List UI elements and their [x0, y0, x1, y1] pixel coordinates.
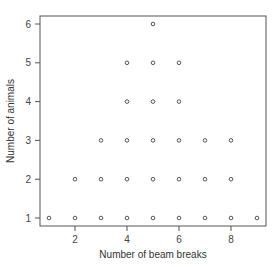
scatter-chart: 2468 123456 Number of beam breaks Number… [0, 0, 278, 267]
data-point-circle [99, 139, 103, 143]
data-point-circle [151, 61, 155, 65]
data-point-circle [177, 177, 181, 181]
x-tick-label: 2 [72, 234, 78, 245]
data-point-circle [203, 216, 207, 220]
data-point-circle [203, 139, 207, 143]
data-point-circle [151, 22, 155, 26]
y-tick-label: 5 [25, 57, 31, 68]
x-axis: 2468 [72, 226, 234, 245]
data-point-circle [151, 139, 155, 143]
data-point-circle [229, 177, 233, 181]
data-point-circle [177, 139, 181, 143]
data-points [47, 22, 259, 220]
y-tick-label: 4 [25, 96, 31, 107]
data-point-circle [99, 177, 103, 181]
data-point-circle [255, 216, 259, 220]
plot-frame [40, 16, 266, 226]
data-point-circle [99, 216, 103, 220]
x-tick-label: 8 [228, 234, 234, 245]
data-point-circle [125, 61, 129, 65]
data-point-circle [151, 100, 155, 104]
x-tick-label: 4 [124, 234, 130, 245]
data-point-circle [177, 100, 181, 104]
data-point-circle [125, 100, 129, 104]
data-point-circle [125, 177, 129, 181]
data-point-circle [177, 216, 181, 220]
data-point-circle [73, 177, 77, 181]
data-point-circle [229, 216, 233, 220]
x-tick-label: 6 [176, 234, 182, 245]
plot-border [40, 16, 266, 226]
data-point-circle [151, 216, 155, 220]
data-point-circle [151, 177, 155, 181]
x-axis-label: Number of beam breaks [99, 249, 206, 260]
data-point-circle [125, 139, 129, 143]
data-point-circle [125, 216, 129, 220]
y-axis-label: Number of animals [5, 79, 16, 163]
y-tick-label: 3 [25, 135, 31, 146]
y-tick-label: 1 [25, 213, 31, 224]
data-point-circle [177, 61, 181, 65]
data-point-circle [73, 216, 77, 220]
y-tick-label: 2 [25, 174, 31, 185]
data-point-circle [203, 177, 207, 181]
y-tick-label: 6 [25, 19, 31, 30]
data-point-circle [229, 139, 233, 143]
data-point-circle [47, 216, 51, 220]
y-axis: 123456 [25, 19, 40, 224]
